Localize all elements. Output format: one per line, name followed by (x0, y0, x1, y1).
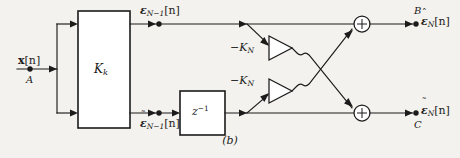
arrow-kk-top-in (70, 21, 78, 28)
node-label-a: A (26, 74, 33, 85)
node-dot-c (413, 110, 418, 115)
figure-caption: (b) (0, 134, 460, 147)
upper-amplifier-label: −KN (230, 41, 254, 55)
node-dot-bottom-eps (156, 110, 161, 115)
arrow-kk-bottom-in (70, 110, 78, 117)
bottom-intermediate-label: ˜εN−1[n] (140, 117, 180, 131)
arrow-top-node (148, 21, 156, 28)
arrow-input (49, 66, 57, 73)
node-dot-b (413, 21, 418, 26)
arrow-bottom-node (148, 110, 156, 117)
bottom-output-label: ˜εN[n] (421, 104, 450, 118)
delay-block-label: z−1 (192, 104, 209, 118)
upper-amplifier-triangle (269, 36, 292, 60)
top-intermediate-label: ˆεN−1[n] (140, 4, 180, 18)
arrow-bottom-branch (239, 110, 247, 117)
lower-amplifier-triangle (269, 79, 292, 103)
upper-amp-to-lower-adder-wire (292, 48, 352, 108)
arrow-top-branch (239, 21, 247, 28)
arrow-delay-in (172, 110, 180, 117)
lower-amp-to-upper-adder-wire (292, 29, 352, 91)
top-output-label: ˆεN[n] (421, 15, 450, 29)
arrow-top-output (405, 21, 413, 28)
input-signal-label: x[n] (18, 54, 40, 67)
arrow-bottom-output (405, 110, 413, 117)
node-dot-a (27, 66, 32, 71)
kk-block-label: Kk (94, 62, 108, 77)
node-dot-top-eps (156, 21, 161, 26)
node-label-c: C (414, 119, 422, 130)
lower-amplifier-label: −KN (230, 74, 254, 88)
